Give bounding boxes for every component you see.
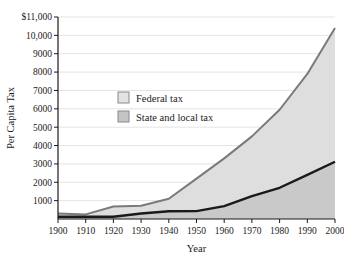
x-tick-label: 2000 [326,226,344,236]
y-tick-label: 7000 [33,86,52,96]
legend-label: Federal tax [136,93,184,104]
y-tick-label: $11,000 [21,12,52,22]
legend-swatch [118,92,129,103]
x-tick-label: 1920 [104,226,123,236]
y-tick-label: 10,000 [26,31,52,41]
x-tick-label: 1950 [187,226,206,236]
chart-container: 10002000300040005000600070008000900010,0… [0,0,344,260]
y-tick-label: 4000 [33,141,52,151]
y-tick-label: 3000 [33,159,52,169]
y-tick-label: 1000 [33,196,52,206]
x-tick-label: 1960 [215,226,234,236]
y-tick-label: 9000 [33,49,52,59]
legend-swatch [118,111,129,122]
x-tick-label: 1940 [159,226,178,236]
y-tick-label: 2000 [33,178,52,188]
x-axis-title: Year [187,243,207,254]
x-tick-label: 1990 [298,226,317,236]
x-tick-label: 1970 [242,226,261,236]
tax-per-capita-area-chart: 10002000300040005000600070008000900010,0… [0,0,344,260]
x-tick-label: 1910 [76,226,95,236]
x-tick-label: 1930 [132,226,151,236]
y-tick-label: 5000 [33,123,52,133]
y-tick-label: 6000 [33,104,52,114]
x-tick-label: 1900 [49,226,68,236]
y-tick-label: 8000 [33,67,52,77]
x-tick-label: 1980 [270,226,289,236]
y-axis-title: Per Capita Tax [5,86,16,149]
legend-label: State and local tax [136,112,214,123]
